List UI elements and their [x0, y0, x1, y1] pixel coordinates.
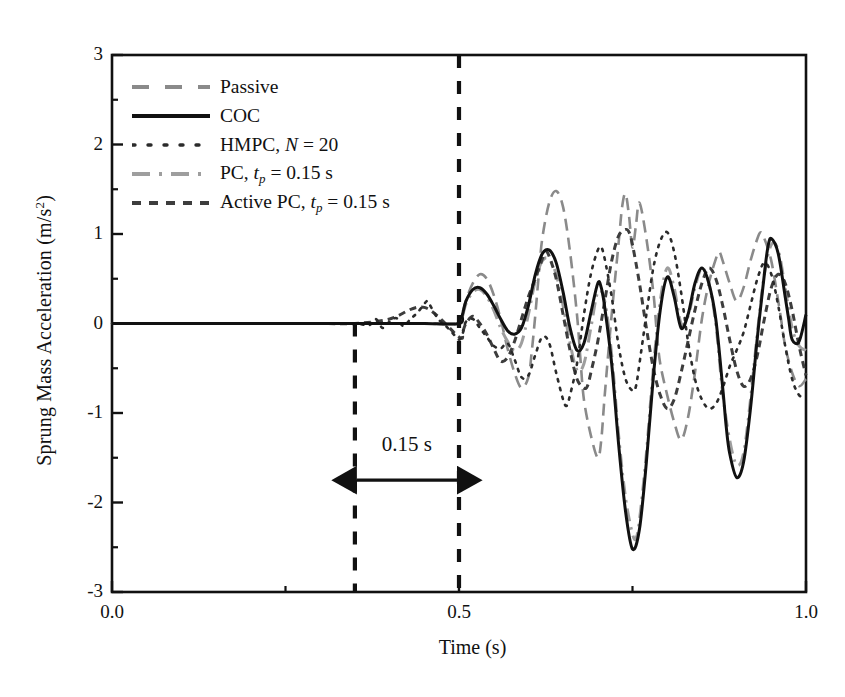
- legend-key-hmpc-icon: [132, 138, 210, 152]
- y-tick-label: -3: [87, 580, 103, 601]
- legend-label-passive: Passive: [220, 77, 279, 97]
- y-tick-label: 1: [94, 222, 104, 243]
- legend-item-coc[interactable]: COC: [132, 101, 432, 130]
- legend-key-activepc-icon: [132, 196, 210, 210]
- legend-key-coc-icon: [132, 109, 210, 123]
- legend-item-pc[interactable]: PC, tp = 0.15 s: [132, 159, 432, 188]
- y-tick-label: 2: [94, 133, 104, 154]
- legend-item-passive[interactable]: Passive: [132, 72, 432, 101]
- y-tick-label: 0: [94, 312, 104, 333]
- delay-label: 0.15 s: [382, 432, 432, 456]
- y-tick-label: 3: [94, 43, 104, 64]
- legend-item-activepc[interactable]: Active PC, tp = 0.15 s: [132, 188, 432, 217]
- legend-label-hmpc: HMPC, N = 20: [220, 135, 338, 155]
- legend-key-pc-icon: [132, 167, 210, 181]
- legend-item-hmpc[interactable]: HMPC, N = 20: [132, 130, 432, 159]
- y-tick-label: -2: [87, 491, 103, 512]
- x-tick-label: 1.0: [794, 601, 818, 622]
- legend-label-coc: COC: [220, 106, 260, 126]
- legend: PassiveCOCHMPC, N = 20PC, tp = 0.15 sAct…: [132, 72, 432, 217]
- x-tick-label: 0.0: [100, 601, 124, 622]
- y-tick-label: -1: [87, 401, 103, 422]
- legend-key-passive-icon: [132, 80, 210, 94]
- figure: Sprung Mass Acceleration (m/s2) Time (s)…: [0, 0, 845, 697]
- x-tick-label: 0.5: [447, 601, 471, 622]
- legend-label-activepc: Active PC, tp = 0.15 s: [220, 192, 390, 214]
- legend-label-pc: PC, tp = 0.15 s: [220, 163, 333, 185]
